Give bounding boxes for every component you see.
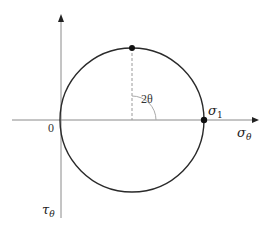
tau-theta-label: τθ xyxy=(42,202,55,219)
sigma1-point xyxy=(201,117,207,123)
angle-label: 2θ xyxy=(141,92,153,106)
diagram-svg: 2θ σ1 σθ 0 τθ xyxy=(0,0,265,226)
origin-label: 0 xyxy=(48,121,54,135)
tau-axis-arrow-icon xyxy=(58,14,64,22)
sigma-axis-arrow-icon xyxy=(252,117,259,123)
sigma-theta-label: σθ xyxy=(237,125,252,142)
sigma1-label: σ1 xyxy=(208,103,223,120)
mohr-circle-diagram: 2θ σ1 σθ 0 τθ xyxy=(0,0,265,226)
top-point xyxy=(129,45,135,51)
